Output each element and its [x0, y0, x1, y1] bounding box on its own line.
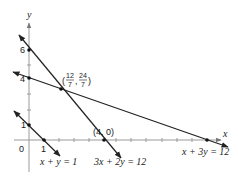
point-intersection [59, 87, 63, 91]
svg-text:(: ( [62, 76, 65, 86]
point-4-0 [102, 138, 106, 142]
svg-text:): ) [88, 76, 91, 86]
x-axis-label: x [222, 128, 228, 139]
point-0-1 [27, 123, 31, 127]
point-label-intersection: ( 12 7 , 24 7 ) [62, 72, 91, 88]
linear-equations-graph: y x 0 6 4 1 1 (4, 0) ( 12 7 , 24 7 ) x +… [0, 0, 238, 181]
point-0-6 [27, 48, 31, 52]
point-label-4-0: (4, 0) [93, 127, 114, 137]
y-tick-label-6: 6 [20, 45, 25, 55]
svg-text:7: 7 [68, 81, 72, 88]
svg-text:12: 12 [66, 72, 74, 79]
origin-label: 0 [19, 144, 24, 154]
svg-text:,: , [75, 76, 78, 86]
y-axis-label: y [26, 9, 32, 20]
svg-text:24: 24 [79, 72, 87, 79]
points [27, 48, 209, 142]
svg-text:7: 7 [81, 81, 85, 88]
point-1-0 [42, 138, 46, 142]
label-x-plus-3y-eq-12: x + 3y = 12 [181, 146, 229, 157]
x-tick-label-1: 1 [41, 144, 46, 154]
label-x-plus-y-eq-1: x + y = 1 [39, 156, 77, 167]
label-3x-plus-2y-eq-12: 3x + 2y = 12 [93, 156, 146, 167]
line-x-plus-3y-eq-12 [13, 72, 228, 147]
point-0-4 [27, 76, 31, 80]
point-12-0 [205, 138, 209, 142]
